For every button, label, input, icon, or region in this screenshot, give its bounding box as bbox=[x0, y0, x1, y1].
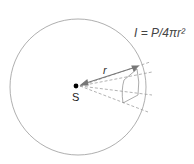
inverse-square-diagram bbox=[0, 0, 194, 164]
area-patch bbox=[122, 69, 139, 103]
intensity-formula: I = P/4πr² bbox=[134, 26, 185, 40]
source-point bbox=[74, 84, 79, 89]
radius-label: r bbox=[103, 64, 107, 76]
source-label: S bbox=[72, 91, 79, 103]
cone-lines bbox=[80, 62, 152, 112]
